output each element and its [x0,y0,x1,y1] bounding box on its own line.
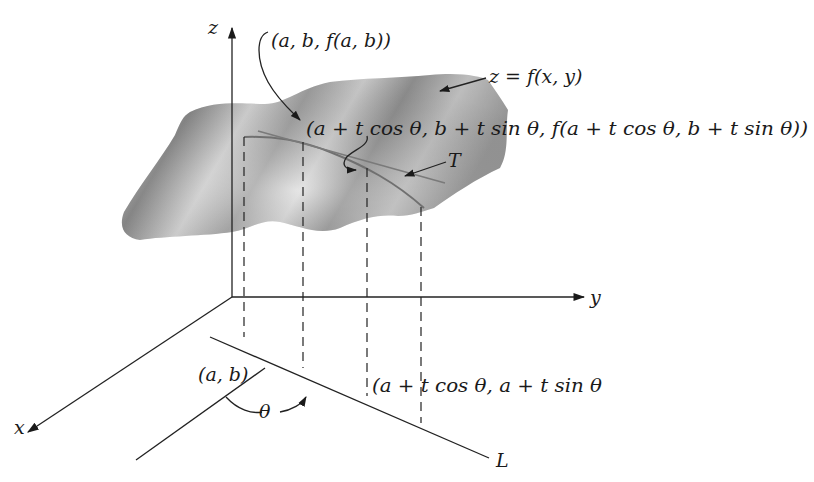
surface-label: z = f(x, y) [488,65,582,87]
line-L-label: L [495,449,509,471]
theta-arc-right [280,397,306,412]
theta-label: θ [259,400,271,422]
y-axis-label: y [589,286,601,308]
point-on-surface-label: (a, b, f(a, b)) [271,29,391,51]
directional-derivative-diagram: z y x (a, b, f(a, b)) z = f(x, y) (a + t… [0,0,814,482]
theta-arc-left [226,397,262,412]
z-axis-label: z [207,16,219,38]
moved-base-point-label: (a + t cos θ, a + t sin θ [372,374,603,396]
x-axis-label: x [14,416,25,438]
line-L [210,337,489,458]
tangent-label: T [448,149,462,171]
moved-point-on-surface-label: (a + t cos θ, b + t sin θ, f(a + t cos θ… [306,117,808,139]
base-point-label: (a, b) [198,363,248,385]
